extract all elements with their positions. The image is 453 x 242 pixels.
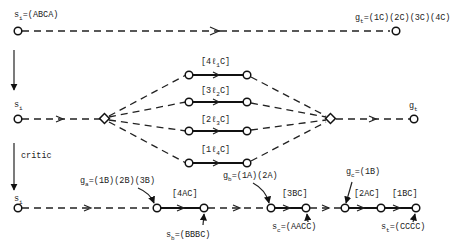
subgoal-c-node bbox=[341, 204, 349, 212]
start-node bbox=[14, 115, 22, 123]
subgoal-a-node bbox=[153, 204, 161, 212]
goal-node bbox=[410, 115, 418, 123]
goal-node bbox=[412, 204, 420, 212]
operator-label: [3BC] bbox=[282, 189, 308, 199]
dashed-edge bbox=[251, 122, 326, 161]
dashed-edge bbox=[109, 120, 186, 131]
state-b-node bbox=[200, 204, 208, 212]
branch-label: [2ℓ3C] bbox=[201, 115, 230, 127]
branch-node bbox=[185, 71, 193, 79]
subgoal-b-label: gb=(1A)(2A) bbox=[223, 171, 278, 183]
state-t-label: st=(CCCC) bbox=[381, 222, 425, 234]
operator-label: [4AC] bbox=[172, 189, 198, 199]
pointer-arrow bbox=[138, 188, 154, 203]
critic-label: critic bbox=[21, 151, 52, 161]
row-2-parallel-plan: si [4ℓ1C] [3ℓ2C] [2ℓ3C] [1ℓ4C] bbox=[14, 57, 418, 167]
pointer-arrow bbox=[413, 214, 415, 222]
split-node-diamond bbox=[100, 114, 110, 124]
branch-node bbox=[185, 127, 193, 135]
branch-node bbox=[185, 159, 193, 167]
dashed-edge bbox=[109, 122, 186, 163]
goal-state-label: gt bbox=[409, 101, 418, 113]
branch-node bbox=[243, 71, 251, 79]
planning-diagram: si=(ABCA) gt=(1C)(2C)(3C)(4C) si [4ℓ1C] … bbox=[0, 0, 453, 242]
branch-node bbox=[185, 98, 193, 106]
branch-label: [3ℓ2C] bbox=[201, 86, 230, 98]
state-c-node bbox=[302, 204, 310, 212]
operator-label: [1BC] bbox=[392, 189, 418, 199]
branch-label: [1ℓ4C] bbox=[201, 145, 230, 157]
pointer-arrow bbox=[307, 214, 308, 222]
pointer-arrow bbox=[253, 183, 269, 203]
subgoal-a-label: ga=(1B)(2B)(3B) bbox=[80, 176, 155, 188]
join-node-diamond bbox=[326, 114, 336, 124]
state-c-label: sc=(AACC) bbox=[272, 222, 316, 234]
subgoal-b-node bbox=[267, 204, 275, 212]
operator-label: [2AC] bbox=[354, 189, 380, 199]
branch-node bbox=[243, 159, 251, 167]
subgoal-c-label: gc=(1B) bbox=[346, 167, 380, 179]
start-node bbox=[14, 204, 22, 212]
start-node bbox=[14, 27, 22, 35]
goal-node bbox=[392, 27, 400, 35]
row-3-linearized-plan: si ga=(1B)(2B)(3B) [4AC] sb=(BBBC) gb=(1… bbox=[14, 167, 425, 242]
branch-node bbox=[243, 127, 251, 135]
dashed-edge bbox=[251, 103, 326, 117]
goal-state-label: gt=(1C)(2C)(3C)(4C) bbox=[355, 13, 450, 25]
intermediate-node bbox=[377, 204, 385, 212]
dashed-edge bbox=[251, 120, 326, 130]
branch-node bbox=[243, 98, 251, 106]
branch-label: [4ℓ1C] bbox=[201, 57, 230, 69]
pointer-arrow bbox=[203, 214, 204, 225]
pointer-arrow bbox=[346, 182, 352, 203]
start-state-label: si bbox=[14, 100, 23, 112]
start-state-label: si=(ABCA) bbox=[14, 10, 58, 22]
state-b-label: sb=(BBBC) bbox=[166, 230, 210, 242]
row-1-abstract-plan: si=(ABCA) gt=(1C)(2C)(3C)(4C) bbox=[14, 10, 450, 35]
